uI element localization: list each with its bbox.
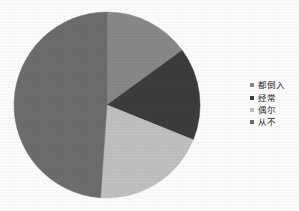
legend-label-1: 经常: [258, 93, 276, 103]
legend-label-0: 都倒入: [258, 80, 285, 90]
legend-item-3[interactable]: 从不: [250, 116, 299, 128]
legend-item-1[interactable]: 经常: [250, 91, 299, 103]
pie-plot-area: [0, 0, 215, 211]
legend-item-2[interactable]: 偶尔: [250, 104, 299, 116]
legend-swatch-icon-0: [250, 83, 254, 87]
pie-svg: [0, 0, 215, 211]
legend-label-2: 偶尔: [258, 105, 276, 115]
legend-label-3: 从不: [258, 117, 276, 127]
legend-item-0[interactable]: 都倒入: [250, 79, 299, 91]
pie-slice-3[interactable]: [14, 12, 107, 198]
pie-slice-group: [14, 12, 200, 198]
legend-swatch-icon-3: [250, 120, 254, 124]
pie-chart-figure: 都倒入 经常 偶尔 从不: [0, 0, 299, 211]
legend-swatch-icon-2: [250, 108, 254, 112]
chart-legend: 都倒入 经常 偶尔 从不: [250, 79, 299, 129]
legend-swatch-icon-1: [250, 96, 254, 100]
